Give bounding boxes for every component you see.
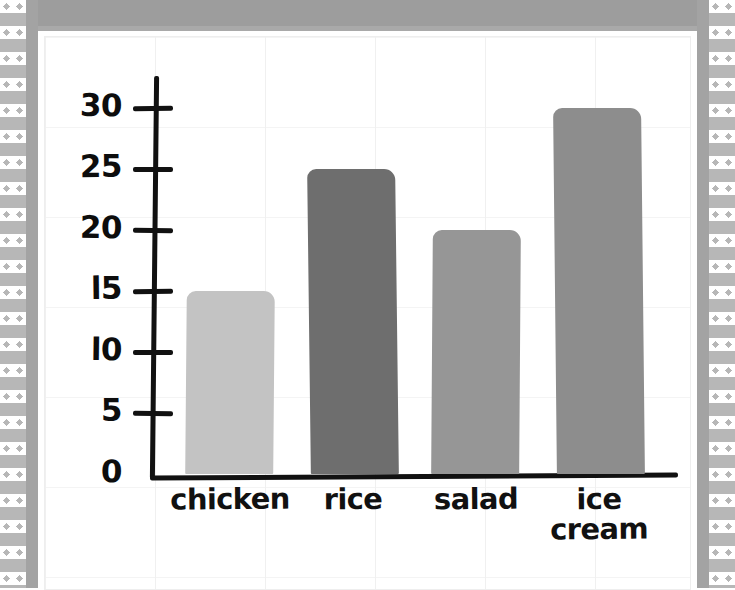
x-axis-label-line2: cream [521,513,677,545]
y-axis-label-30: 30 [62,87,122,124]
bar-chicken [185,291,275,474]
bar-ice [553,108,645,474]
y-axis-label-5: 5 [62,392,122,429]
bar-series [150,80,680,474]
x-axis-label-line1: ice [521,483,677,515]
y-axis-label-15: l5 [62,270,122,307]
x-axis-label-ice: icecream [521,483,678,545]
bar-rice [307,169,399,474]
y-axis-label-10: l0 [62,331,122,368]
y-axis-label-0: 0 [62,453,122,490]
y-axis-label-20: 20 [62,209,122,246]
y-axis-label-25: 25 [62,148,122,185]
bar-salad [431,230,521,474]
